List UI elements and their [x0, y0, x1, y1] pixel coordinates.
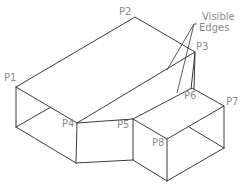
edge-p4-vertical [76, 123, 77, 163]
visible-edges-leader: Visible Edges [167, 11, 235, 93]
label-p6: P6 [184, 90, 196, 101]
label-p5: P5 [117, 119, 129, 130]
edge-inner-back [16, 107, 51, 127]
edge-small-bottom-left [133, 160, 167, 181]
label-p4: P4 [62, 118, 74, 129]
label-p2: P2 [119, 6, 131, 17]
label-p8: P8 [152, 137, 164, 148]
label-p7: P7 [226, 96, 238, 107]
edge-small-bottom-right [167, 148, 224, 181]
edge-small-inner [189, 127, 224, 148]
isometric-diagram: Visible Edges P1 P2 P3 P4 P5 P6 P7 P8 [0, 0, 249, 188]
edge-p4-p5-bottom [76, 160, 133, 163]
annotation-line2: Edges [199, 22, 229, 33]
label-p3: P3 [196, 41, 208, 52]
large-block [16, 17, 195, 163]
small-block [133, 88, 224, 181]
leader-line-1 [167, 24, 194, 70]
annotation-line1: Visible [202, 11, 235, 22]
label-p1: P1 [4, 72, 16, 83]
edge-left-bottom [16, 127, 76, 163]
small-top-face [133, 88, 224, 139]
top-face-edges [16, 17, 195, 123]
